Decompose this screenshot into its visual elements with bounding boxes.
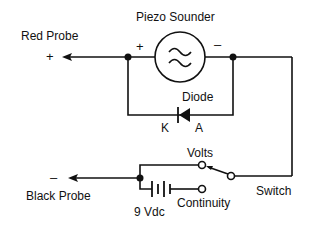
switch-terminal-common [228, 173, 235, 180]
label-continuity: Continuity [177, 197, 230, 209]
switch-arrow-icon [206, 166, 213, 170]
label-black-probe: Black Probe [26, 190, 91, 202]
switch-terminal-volts [199, 162, 206, 169]
label-red-probe-polarity: + [46, 50, 54, 63]
label-anode: A [195, 122, 203, 134]
label-switch: Switch [256, 185, 291, 197]
label-sounder-plus: + [136, 40, 144, 53]
junction-dot [137, 175, 144, 182]
junction-dot [230, 54, 237, 61]
label-battery: 9 Vdc [134, 206, 165, 218]
label-volts: Volts [187, 147, 213, 159]
diode-symbol [178, 107, 190, 123]
tilde-icon [169, 49, 191, 67]
switch-terminal-continuity [199, 186, 206, 193]
wire-volts [140, 165, 198, 178]
wire-diode-loop [128, 57, 233, 115]
label-black-probe-polarity: – [50, 171, 57, 184]
label-red-probe: Red Probe [21, 30, 78, 42]
label-sounder-minus: – [214, 38, 221, 51]
label-cathode: K [161, 122, 169, 134]
battery-symbol [152, 181, 170, 197]
piezo-sounder-symbol [155, 32, 205, 82]
junction-dot [125, 54, 132, 61]
label-diode: Diode [182, 91, 213, 103]
label-sounder: Piezo Sounder [136, 11, 215, 23]
